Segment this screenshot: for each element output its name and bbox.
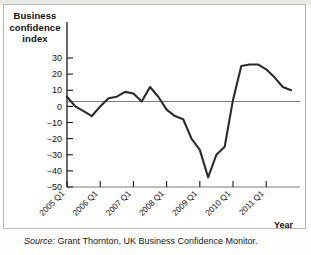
x-tick-label: 2005 Q1	[38, 189, 67, 218]
x-axis-label: Year	[274, 220, 293, 230]
x-tick-label: 2006 Q1	[71, 189, 100, 218]
figure-page: Business confidence index 3020100−10−20−…	[0, 0, 311, 255]
x-tick-label: 2008 Q1	[137, 189, 166, 218]
source-prefix: Source:	[24, 236, 55, 246]
y-tick-label: −30	[47, 150, 62, 160]
y-tick-label: 10	[52, 85, 62, 95]
x-tick-label: 2011 Q1	[237, 189, 265, 217]
y-tick-label: 30	[52, 53, 62, 63]
line-chart-plot: 3020100−10−20−30−40−50 2005 Q12006 Q1200…	[0, 0, 311, 255]
data-series-line	[67, 64, 291, 177]
x-tick-label: 2010 Q1	[204, 189, 233, 218]
y-tick-label: 20	[52, 69, 62, 79]
y-tick-label: −10	[47, 118, 62, 128]
y-tick-label: −40	[47, 166, 62, 176]
y-tick-label: −20	[47, 134, 62, 144]
y-tick-group: 3020100−10−20−30−40−50	[47, 53, 73, 192]
x-tick-label: 2009 Q1	[171, 189, 200, 218]
source-caption: Source: Grant Thornton, UK Business Conf…	[24, 236, 257, 246]
source-text: Grant Thornton, UK Business Confidence M…	[55, 236, 257, 246]
x-tick-label: 2007 Q1	[104, 189, 133, 218]
y-tick-label: 0	[57, 102, 62, 112]
